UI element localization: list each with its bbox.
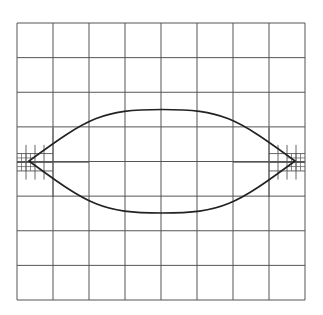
mesh-diagram	[0, 0, 323, 315]
quadtree-mesh-figure	[0, 0, 323, 315]
mesh-grid	[17, 23, 305, 300]
